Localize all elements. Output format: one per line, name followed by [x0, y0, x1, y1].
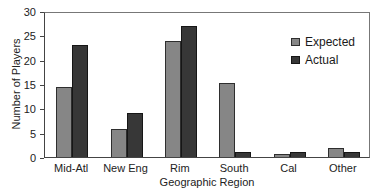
bar-group-south — [219, 83, 251, 157]
bar-group-rim — [165, 26, 197, 157]
legend-item-actual: Actual — [291, 53, 355, 67]
bar-group-other — [328, 148, 360, 157]
legend-swatch-expected — [291, 38, 300, 46]
bar-group-mid-atl — [56, 45, 88, 157]
y-tick-label-5: 5 — [12, 128, 36, 140]
y-tick-label-15: 15 — [12, 79, 36, 91]
y-tick-label-20: 20 — [12, 55, 36, 67]
bar-actual-new-eng — [127, 113, 143, 157]
bar-actual-rim — [181, 26, 197, 157]
x-category-label-other: Other — [308, 162, 378, 174]
bar-expected-mid-atl — [56, 87, 72, 157]
y-tick-label-10: 10 — [12, 103, 36, 115]
y-tick-label-30: 30 — [12, 6, 36, 18]
legend-label-expected: Expected — [305, 35, 355, 49]
legend: ExpectedActual — [291, 35, 355, 67]
bar-expected-rim — [165, 41, 181, 157]
bar-group-new-eng — [111, 113, 143, 157]
bar-expected-new-eng — [111, 129, 127, 157]
bar-expected-south — [219, 83, 235, 157]
x-axis-label: Geographic Region — [44, 176, 370, 188]
bar-expected-other — [328, 148, 344, 157]
bar-chart: Number of Players 051015202530 ExpectedA… — [0, 0, 382, 196]
legend-item-expected: Expected — [291, 35, 355, 49]
legend-label-actual: Actual — [305, 53, 338, 67]
y-tick-mark — [40, 158, 44, 159]
bar-group-cal — [274, 152, 306, 157]
bar-expected-cal — [274, 154, 290, 157]
legend-swatch-actual — [291, 56, 300, 64]
bar-actual-cal — [290, 152, 306, 157]
bar-actual-south — [235, 152, 251, 157]
plot-area: ExpectedActual — [44, 12, 370, 158]
y-tick-label-25: 25 — [12, 30, 36, 42]
bar-actual-mid-atl — [72, 45, 88, 157]
bar-actual-other — [344, 152, 360, 157]
y-tick-label-0: 0 — [12, 152, 36, 164]
